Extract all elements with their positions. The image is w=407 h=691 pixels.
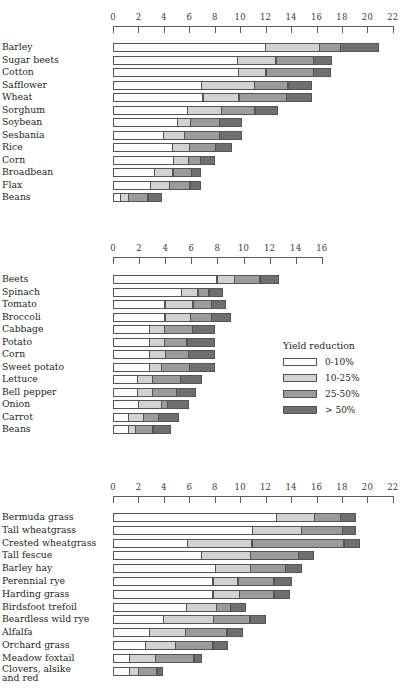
bar-segment-s2 <box>190 313 212 322</box>
stacked-bar <box>113 93 314 102</box>
bar-segment-s0 <box>113 603 187 612</box>
bar-segment-s2 <box>161 363 190 372</box>
stacked-bar <box>113 513 358 522</box>
chart-row: Safflower <box>0 80 407 92</box>
bar-segment-s1 <box>128 413 144 422</box>
stacked-bar <box>113 56 334 65</box>
legend-title: Yield reduction <box>283 340 360 351</box>
bar-segment-s3 <box>211 300 225 309</box>
category-label: Alfalfa <box>2 626 33 637</box>
x-axis-tick <box>240 26 241 33</box>
category-label: Potato <box>2 336 32 347</box>
bar-segment-s1 <box>203 93 240 102</box>
bar-segment-s1 <box>154 168 173 177</box>
bar-segment-s1 <box>237 56 276 65</box>
bar-segment-s0 <box>113 413 129 422</box>
bar-segment-s0 <box>113 68 239 77</box>
chart-row: Tall wheatgrass <box>0 525 407 537</box>
category-label: Tall fescue <box>2 549 52 560</box>
category-label: Perennial rye <box>2 575 65 586</box>
category-label: Beets <box>2 273 28 284</box>
x-axis-tick <box>244 257 245 264</box>
stacked-bar <box>113 413 181 422</box>
bar-segment-s1 <box>201 81 254 90</box>
bar-segment-s2 <box>175 641 213 650</box>
category-label: Soybean <box>2 116 42 127</box>
bar-segment-s2 <box>152 388 177 397</box>
stacked-bar <box>113 68 333 77</box>
x-axis-tick-label: 18 <box>336 482 347 492</box>
x-axis-tick <box>165 257 166 264</box>
bar-segment-s1 <box>201 551 251 560</box>
category-label: Tall wheatgrass <box>2 524 76 535</box>
stacked-bar <box>113 118 244 127</box>
bar-segment-s2 <box>189 143 216 152</box>
legend-item: 10-25% <box>283 371 360 384</box>
stacked-bar <box>113 143 234 152</box>
x-axis-tick-label: 18 <box>336 12 347 22</box>
stacked-bar <box>113 181 203 190</box>
stacked-bar <box>113 275 281 284</box>
bar-segment-s2 <box>301 526 343 535</box>
category-label: Broccoli <box>2 311 41 322</box>
bar-segment-s2 <box>198 288 210 297</box>
bar-segment-s3 <box>194 654 203 663</box>
category-label: Broadbean <box>2 166 53 177</box>
bar-segment-s1 <box>215 564 251 573</box>
bar-segment-s3 <box>219 131 242 140</box>
bar-segment-s0 <box>113 667 130 676</box>
category-label: Rice <box>2 141 23 152</box>
x-axis-tick-label: 6 <box>187 12 193 22</box>
x-axis-tick-label: 10 <box>235 12 246 22</box>
stacked-bar <box>113 526 358 535</box>
x-axis-tick-label: 12 <box>260 12 271 22</box>
x-axis-tick <box>291 496 292 503</box>
chart-row: Cabbage <box>0 324 407 336</box>
bar-segment-s0 <box>113 131 164 140</box>
bar-segment-s1 <box>165 313 191 322</box>
bar-segment-s1 <box>165 300 194 309</box>
x-axis-tick-label: 14 <box>285 12 296 22</box>
bar-segment-s0 <box>113 654 130 663</box>
bar-segment-s2 <box>193 300 213 309</box>
x-axis-tick-label: 14 <box>285 482 296 492</box>
bar-segment-s0 <box>113 156 174 165</box>
chart-row: Cotton <box>0 67 407 79</box>
bar-segment-s2 <box>128 193 148 202</box>
category-label: Barley <box>2 41 33 52</box>
bar-segment-s2 <box>152 375 181 384</box>
x-axis-tick <box>291 26 292 33</box>
category-label: Bell pepper <box>2 386 57 397</box>
bar-segment-s2 <box>143 413 159 422</box>
legend-swatch <box>283 406 317 414</box>
legend-label: > 50% <box>325 405 355 415</box>
bar-segment-s3 <box>255 106 278 115</box>
x-axis-tick-label: 2 <box>136 12 142 22</box>
stacked-bar <box>113 193 164 202</box>
category-label: Beardless wild rye <box>2 613 89 624</box>
category-label: Clovers, alsikeand red <box>2 664 71 683</box>
stacked-bar <box>113 654 205 663</box>
x-axis-tick <box>317 496 318 503</box>
bar-segment-s1 <box>149 628 186 637</box>
bar-segment-s3 <box>285 564 302 573</box>
bar-segment-s3 <box>148 193 162 202</box>
x-axis-tick <box>217 257 218 264</box>
bar-segment-s3 <box>157 667 163 676</box>
x-axis-tick <box>393 26 394 33</box>
x-axis-line <box>113 496 393 497</box>
bar-segment-s3 <box>158 413 179 422</box>
category-label: Bermuda grass <box>2 511 74 522</box>
bar-segment-s3 <box>286 93 311 102</box>
bar-segment-s3 <box>215 143 232 152</box>
bar-segment-s1 <box>173 156 188 165</box>
bar-segment-s3 <box>260 275 280 284</box>
chart-row: Perennial rye <box>0 576 407 588</box>
bar-segment-s2 <box>266 68 314 77</box>
x-axis-tick <box>317 26 318 33</box>
bar-segment-s1 <box>238 68 266 77</box>
bar-segment-s3 <box>227 628 244 637</box>
x-axis-tick-label: 8 <box>212 12 218 22</box>
bar-segment-s0 <box>113 93 203 102</box>
chart-row: Sugar beets <box>0 55 407 67</box>
